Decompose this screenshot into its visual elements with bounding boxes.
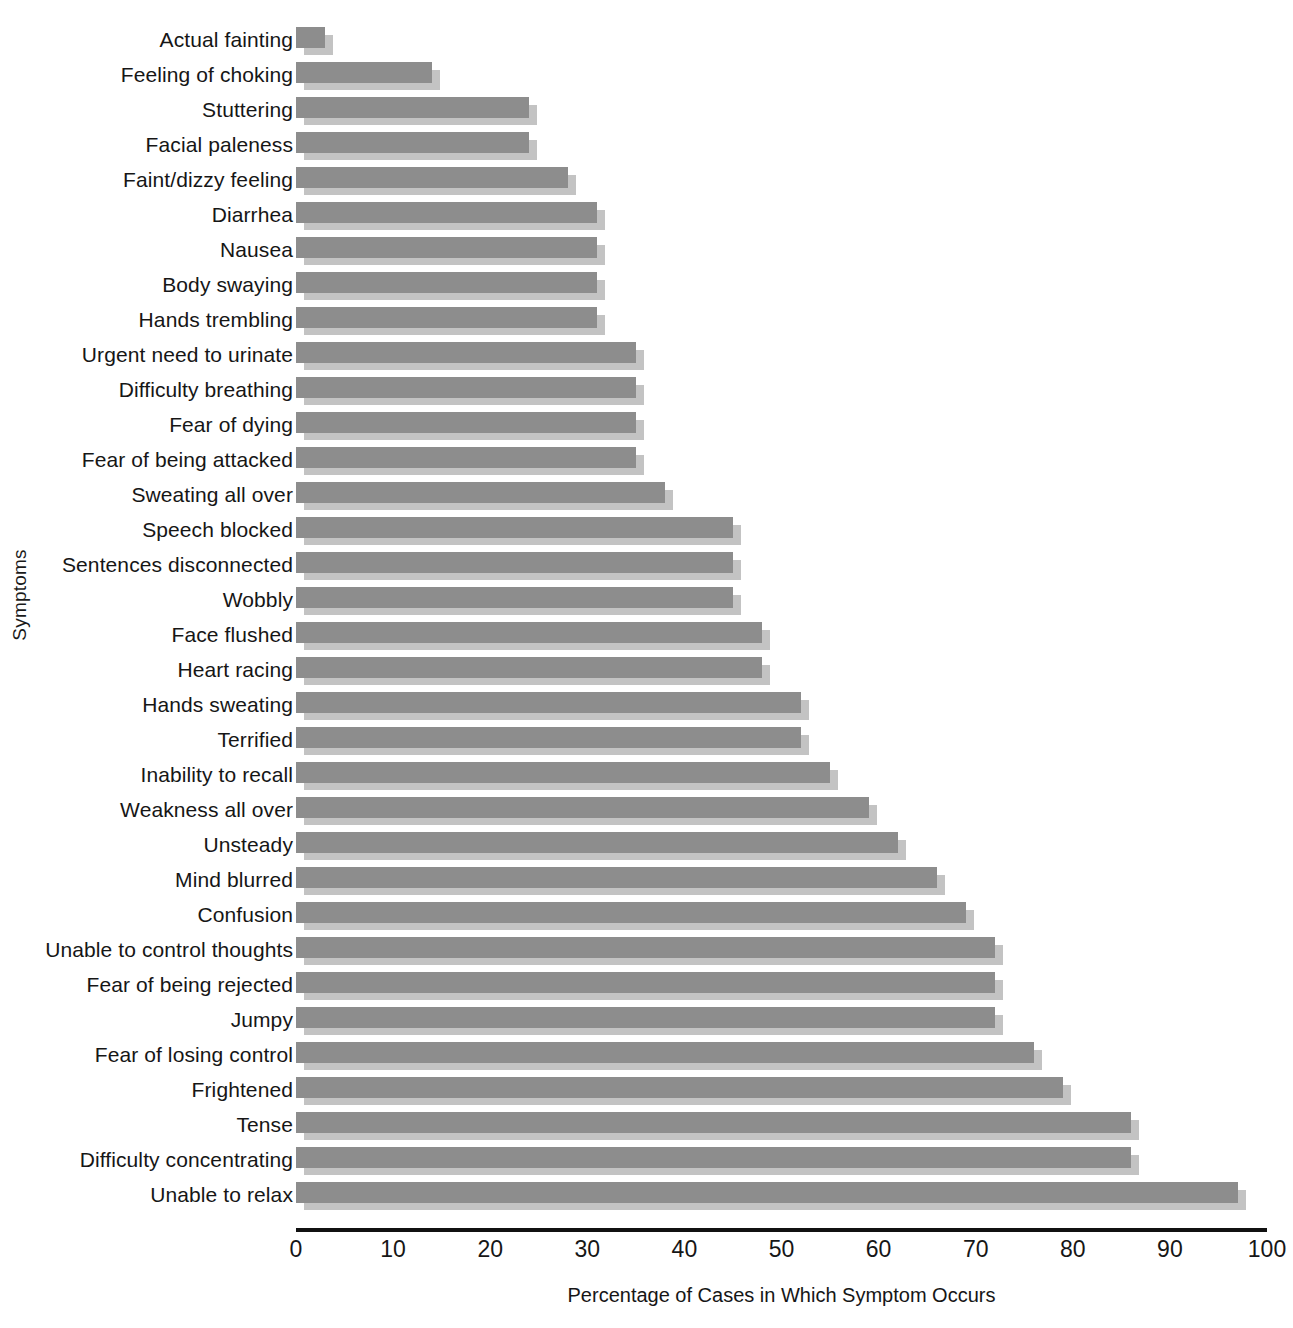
bar-row: Terrified [0, 722, 1293, 757]
x-tick-label: 90 [1157, 1236, 1183, 1263]
bar-group [296, 1142, 1141, 1177]
bar-group [296, 687, 811, 722]
bar-group [296, 127, 539, 162]
bar-row: Hands trembling [0, 302, 1293, 337]
bar-row: Wobbly [0, 582, 1293, 617]
bar [296, 692, 801, 713]
bar [296, 1077, 1063, 1098]
bar-row: Weakness all over [0, 792, 1293, 827]
category-label: Sentences disconnected [62, 547, 293, 582]
bar-row: Frightened [0, 1072, 1293, 1107]
bar-group [296, 162, 578, 197]
category-label: Jumpy [231, 1002, 293, 1037]
bar-row: Difficulty breathing [0, 372, 1293, 407]
bar [296, 27, 325, 48]
category-label: Fear of being attacked [82, 442, 293, 477]
bar-row: Jumpy [0, 1002, 1293, 1037]
bar [296, 342, 636, 363]
bar [296, 1112, 1131, 1133]
bar-row: Sentences disconnected [0, 547, 1293, 582]
bar-group [296, 967, 1005, 1002]
bar-group [296, 407, 646, 442]
bar [296, 447, 636, 468]
category-label: Face flushed [172, 617, 293, 652]
bar [296, 307, 597, 328]
bar-group [296, 477, 675, 512]
category-label: Difficulty concentrating [80, 1142, 293, 1177]
bar-row: Body swaying [0, 267, 1293, 302]
x-tick-label: 20 [477, 1236, 503, 1263]
x-tick-label: 30 [575, 1236, 601, 1263]
bar-row: Unable to control thoughts [0, 932, 1293, 967]
bar-row: Confusion [0, 897, 1293, 932]
x-tick-label: 10 [380, 1236, 406, 1263]
bar-group [296, 757, 840, 792]
category-label: Difficulty breathing [119, 372, 293, 407]
category-label: Nausea [220, 232, 293, 267]
category-label: Mind blurred [175, 862, 293, 897]
bar-row: Sweating all over [0, 477, 1293, 512]
bar-group [296, 372, 646, 407]
bar-row: Mind blurred [0, 862, 1293, 897]
bar-row: Feeling of choking [0, 57, 1293, 92]
bar [296, 482, 665, 503]
bar [296, 62, 432, 83]
x-tick-label: 70 [963, 1236, 989, 1263]
category-label: Actual fainting [160, 22, 293, 57]
plot-area: Actual faintingFeeling of chokingStutter… [0, 22, 1293, 1212]
bar [296, 272, 597, 293]
category-label: Frightened [192, 1072, 293, 1107]
bar-row: Heart racing [0, 652, 1293, 687]
bar-group [296, 232, 607, 267]
bar-group [296, 1107, 1141, 1142]
category-label: Heart racing [177, 652, 293, 687]
bar-group [296, 897, 976, 932]
x-tick-label: 40 [672, 1236, 698, 1263]
bar-row: Hands sweating [0, 687, 1293, 722]
category-label: Wobbly [223, 582, 293, 617]
bar-group [296, 92, 539, 127]
bar-group [296, 792, 879, 827]
bar-group [296, 442, 646, 477]
x-axis-title: Percentage of Cases in Which Symptom Occ… [296, 1284, 1267, 1307]
x-axis-line [296, 1228, 1267, 1232]
bar-group [296, 337, 646, 372]
category-label: Fear of dying [169, 407, 293, 442]
category-label: Diarrhea [212, 197, 293, 232]
bar-group [296, 652, 772, 687]
bar-group [296, 267, 607, 302]
x-tick-label: 80 [1060, 1236, 1086, 1263]
bar [296, 97, 529, 118]
bar-group [296, 1177, 1248, 1212]
bar-row: Actual fainting [0, 22, 1293, 57]
bar [296, 657, 762, 678]
bar-row: Face flushed [0, 617, 1293, 652]
bar-row: Facial paleness [0, 127, 1293, 162]
bar [296, 167, 568, 188]
category-label: Inability to recall [141, 757, 293, 792]
bar-row: Speech blocked [0, 512, 1293, 547]
bar-row: Nausea [0, 232, 1293, 267]
category-label: Terrified [217, 722, 293, 757]
bar-row: Fear of being rejected [0, 967, 1293, 1002]
bar-row: Inability to recall [0, 757, 1293, 792]
bar [296, 237, 597, 258]
bar [296, 552, 733, 573]
category-label: Fear of losing control [95, 1037, 293, 1072]
category-label: Stuttering [202, 92, 293, 127]
bar-row: Urgent need to urinate [0, 337, 1293, 372]
category-label: Faint/dizzy feeling [123, 162, 293, 197]
bar-row: Difficulty concentrating [0, 1142, 1293, 1177]
x-tick-label: 60 [866, 1236, 892, 1263]
category-label: Sweating all over [131, 477, 293, 512]
bar-group [296, 22, 335, 57]
x-tick-label: 0 [290, 1236, 303, 1263]
bar-group [296, 827, 908, 862]
bar-row: Unsteady [0, 827, 1293, 862]
bar-group [296, 617, 772, 652]
bar-group [296, 302, 607, 337]
bar [296, 412, 636, 433]
bar [296, 1182, 1238, 1203]
category-label: Tense [236, 1107, 293, 1142]
bar [296, 587, 733, 608]
